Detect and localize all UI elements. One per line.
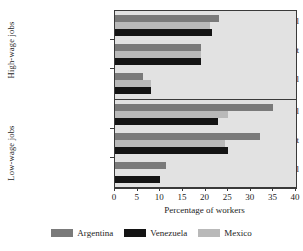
legend: Argentina Venezuela Mexico <box>0 228 303 238</box>
bar-mexico-informal-high <box>115 22 210 29</box>
legend-swatch-mexico <box>198 229 220 237</box>
x-tick-35 <box>272 187 273 191</box>
x-tick-20 <box>205 187 206 191</box>
bar-venezuela-informal-low <box>115 118 218 125</box>
x-tick-40 <box>295 187 296 191</box>
legend-swatch-argentina <box>51 229 73 237</box>
plot-panel-high-wage <box>114 10 297 99</box>
x-tick-10 <box>159 187 160 191</box>
bar-venezuela-formal-high <box>115 87 151 94</box>
x-tick-label-25: 25 <box>217 192 237 202</box>
bar-mexico-self-employment-high <box>115 51 201 58</box>
panel-label-high-wage: High-wage jobs <box>6 5 16 95</box>
x-tick-30 <box>250 187 251 191</box>
x-tick-label-30: 30 <box>240 192 260 202</box>
legend-swatch-venezuela <box>124 229 146 237</box>
bar-argentina-formal-low <box>115 162 166 169</box>
bar-mexico-informal-low <box>115 111 228 118</box>
plot-panel-low-wage <box>114 99 297 189</box>
bar-argentina-self-employment-high <box>115 44 201 51</box>
bar-mexico-formal-high <box>115 80 151 87</box>
x-tick-label-10: 10 <box>149 192 169 202</box>
legend-item-mexico: Mexico <box>198 228 252 238</box>
x-tick-0 <box>114 187 115 191</box>
legend-item-venezuela: Venezuela <box>124 228 187 238</box>
chart-root: High-wage jobs Low-wage jobs Informal Se… <box>0 0 303 251</box>
x-tick-label-35: 35 <box>262 192 282 202</box>
panel-label-low-wage: Low-wage jobs <box>6 108 16 198</box>
legend-item-argentina: Argentina <box>51 228 113 238</box>
bar-venezuela-informal-high <box>115 29 212 36</box>
x-tick-label-5: 5 <box>127 192 147 202</box>
bar-venezuela-self-employment-low <box>115 147 228 154</box>
x-tick-label-20: 20 <box>195 192 215 202</box>
x-axis-title: Percentage of workers <box>114 205 295 215</box>
x-tick-label-40: 40 <box>285 192 303 202</box>
bar-argentina-formal-high <box>115 73 143 80</box>
bar-argentina-self-employment-low <box>115 133 260 140</box>
x-tick-15 <box>182 187 183 191</box>
bar-argentina-informal-high <box>115 15 219 22</box>
x-tick-5 <box>137 187 138 191</box>
bar-argentina-informal-low <box>115 104 273 111</box>
x-tick-label-0: 0 <box>104 192 124 202</box>
legend-label-venezuela: Venezuela <box>150 228 187 238</box>
bar-venezuela-self-employment-high <box>115 58 201 65</box>
x-tick-label-15: 15 <box>172 192 192 202</box>
legend-label-mexico: Mexico <box>224 228 252 238</box>
bar-venezuela-formal-low <box>115 176 160 183</box>
legend-label-argentina: Argentina <box>77 228 113 238</box>
bar-mexico-self-employment-low <box>115 140 225 147</box>
x-tick-25 <box>227 187 228 191</box>
